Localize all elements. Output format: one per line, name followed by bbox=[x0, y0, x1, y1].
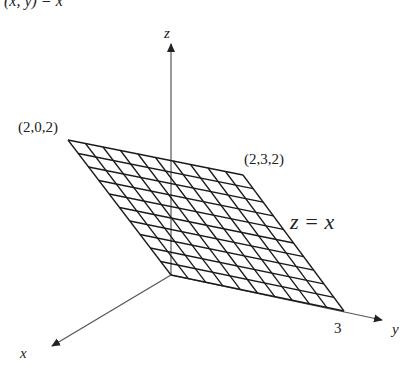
grid-line-y-direction bbox=[150, 248, 323, 284]
grid-line-y-direction bbox=[130, 221, 304, 257]
x-axis-label: x bbox=[19, 345, 27, 361]
header-partial-text: (x, y) = x bbox=[4, 0, 63, 10]
z-axis-label: z bbox=[163, 25, 170, 41]
grid-line-x-direction bbox=[208, 168, 309, 304]
grid-line-x-direction bbox=[243, 175, 344, 311]
y-axis-label: y bbox=[390, 321, 399, 337]
grid-line-x-direction bbox=[191, 165, 293, 301]
grid-line-y-direction bbox=[161, 262, 334, 298]
grid-line-x-direction bbox=[226, 172, 327, 308]
grid-line-y-direction bbox=[171, 275, 344, 311]
plane-diagram: (x, y) = x z x y 3 (2,0,2) (2,3,2) z = x bbox=[0, 0, 408, 374]
x-axis bbox=[52, 275, 171, 346]
grid-line-x-direction bbox=[173, 161, 275, 297]
corner-label-2-0-2: (2,0,2) bbox=[18, 119, 58, 136]
corner-label-2-3-2: (2,3,2) bbox=[244, 151, 284, 168]
grid-line-y-direction bbox=[140, 235, 314, 271]
axes bbox=[52, 44, 382, 346]
y-tick-3: 3 bbox=[334, 320, 342, 336]
plane-equation: z = x bbox=[289, 209, 334, 234]
grid-line-y-direction bbox=[120, 208, 294, 244]
